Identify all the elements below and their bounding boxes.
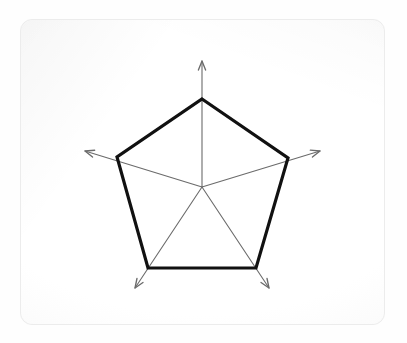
radar-axis-5 <box>85 151 202 187</box>
radar-axis-arrowhead-3 <box>261 279 269 288</box>
radar-axis-4 <box>135 187 202 288</box>
radar-axis-3 <box>202 187 269 288</box>
radar-chart <box>0 0 407 343</box>
radar-axis-2 <box>202 151 320 187</box>
figure-canvas <box>0 0 407 343</box>
radar-axis-arrowhead-4 <box>135 279 143 288</box>
